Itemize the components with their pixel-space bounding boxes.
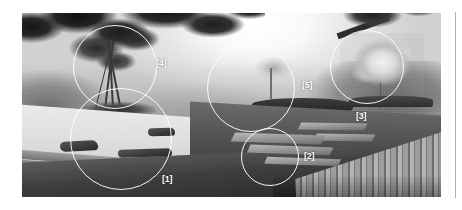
annotated-garden-photograph: [1] [2] [3] [4] [5]: [22, 13, 441, 197]
right-column-rule: [455, 12, 456, 198]
film-grain-overlay: [22, 13, 441, 197]
page-root: [1] [2] [3] [4] [5]: [0, 0, 462, 210]
photo-content: [22, 13, 441, 197]
